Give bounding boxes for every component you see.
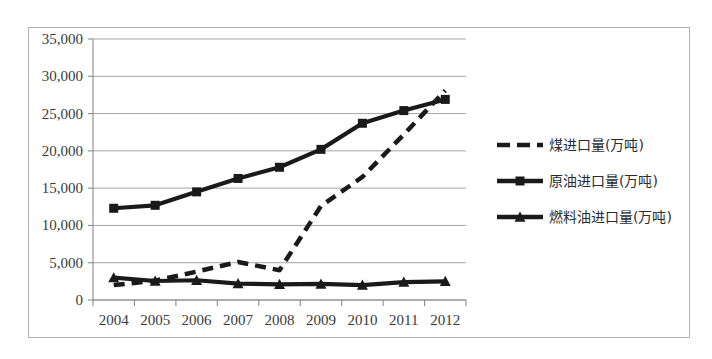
chart-container: 35,00030,00025,00020,00015,00010,0005,00… — [0, 0, 712, 359]
chart-frame-border — [28, 27, 690, 338]
